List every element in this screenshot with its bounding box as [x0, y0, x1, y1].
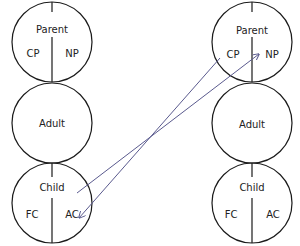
- left-parent-circle: Parent CP NP: [12, 2, 92, 82]
- right-adult-circle: Adult: [212, 83, 292, 163]
- left-cp-label: CP: [26, 48, 39, 59]
- right-parent-label: Parent: [236, 25, 268, 36]
- left-adult-circle: Adult: [12, 83, 92, 163]
- right-np-label: NP: [265, 49, 279, 60]
- left-adult-label: Adult: [39, 118, 65, 129]
- right-cp-label: CP: [226, 49, 239, 60]
- right-ac-label: AC: [266, 209, 280, 220]
- right-child-circle: Child FC AC: [212, 163, 292, 243]
- left-fc-label: FC: [26, 209, 39, 220]
- left-child-circle: Child FC AC: [12, 163, 92, 243]
- arrow-child-to-np: [77, 54, 259, 193]
- left-np-label: NP: [65, 48, 79, 59]
- left-ego-column: Parent CP NP Adult Child FC AC: [12, 2, 92, 243]
- right-fc-label: FC: [225, 209, 238, 220]
- right-adult-label: Adult: [239, 119, 265, 130]
- right-child-label: Child: [239, 182, 264, 193]
- left-ac-label: AC: [65, 209, 79, 220]
- arrow-cp-to-ac: [79, 58, 220, 218]
- left-child-label: Child: [39, 182, 64, 193]
- right-ego-column: Parent CP NP Adult Child FC AC: [212, 2, 292, 243]
- right-parent-circle: Parent CP NP: [212, 2, 292, 82]
- left-parent-label: Parent: [36, 24, 68, 35]
- ego-state-transaction-diagram: Parent CP NP Adult Child FC AC Parent CP…: [0, 0, 300, 246]
